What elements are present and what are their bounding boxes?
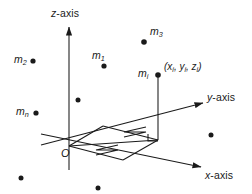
mass-label-m3: m3 <box>150 26 163 37</box>
mass-label-m1-sub: 1 <box>101 54 105 63</box>
point-dot-m2 <box>30 58 35 63</box>
coord-z-sub: i <box>197 66 199 73</box>
mass-label-m1-symbol: m <box>92 49 101 61</box>
mass-label-m2-symbol: m <box>14 53 23 65</box>
projection-line-foot-to-origin <box>69 146 123 160</box>
projection-line-upper-parallel <box>103 126 158 140</box>
mass-label-m3-sub: 3 <box>159 30 163 39</box>
coord-y-sub: i <box>184 66 186 73</box>
point-dot-unlabeled-3 <box>19 176 24 181</box>
mass-label-mn-symbol: m <box>16 105 25 117</box>
y-axis-label-suffix: -axis <box>212 91 235 103</box>
mass-label-m2-sub: 2 <box>23 58 27 67</box>
point-dot-mi <box>155 72 161 78</box>
mass-label-m1: m1 <box>92 50 105 61</box>
origin-label: O <box>61 148 70 159</box>
coord-x-sub: i <box>172 66 174 73</box>
coord-z-symbol: z <box>192 61 197 72</box>
point-dot-unlabeled-4 <box>96 186 101 191</box>
coord-close-paren: ) <box>198 61 201 72</box>
hatch-mark-upper <box>124 127 146 137</box>
z-axis-label: z-axis <box>51 8 79 19</box>
z-axis-label-suffix: -axis <box>56 7 79 19</box>
mass-label-mn: mn <box>16 106 29 117</box>
point-dot-unlabeled-2 <box>209 133 214 138</box>
mass-label-mn-sub: n <box>25 110 29 119</box>
mass-label-mi: mi <box>138 68 148 79</box>
point-dot-mn <box>33 110 38 115</box>
coordinate-triple-label: (xi, yi, zi) <box>164 62 202 72</box>
mass-label-mi-symbol: m <box>138 67 147 79</box>
x-axis-label: x-axis <box>205 170 233 181</box>
figure-3d-coordinate-system: z-axis y-axis x-axis O m2 m1 m3 mn mi (x… <box>0 0 252 194</box>
x-axis-label-suffix: -axis <box>210 169 233 181</box>
y-axis-label: y-axis <box>207 92 235 103</box>
point-dot-unlabeled-1 <box>76 98 81 103</box>
point-dot-m1 <box>101 63 106 68</box>
point-dot-m3 <box>141 39 147 45</box>
mass-label-m2: m2 <box>14 54 27 65</box>
mass-label-m3-symbol: m <box>150 25 159 37</box>
